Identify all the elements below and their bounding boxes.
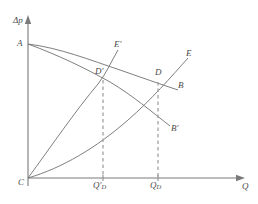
point-label-e: E xyxy=(186,49,192,58)
y-axis-arrowhead xyxy=(25,15,31,24)
point-label-b: B xyxy=(178,81,184,90)
economics-diagram xyxy=(0,0,258,204)
tick-label-q-d-prime-sub: D xyxy=(101,183,106,190)
x-axis-label: Q xyxy=(242,182,249,191)
curve-c-to-e xyxy=(28,58,188,178)
y-axis-label: Δp xyxy=(13,16,23,25)
point-label-d: D xyxy=(155,68,162,77)
tick-label-q-d-prime: Q′D xyxy=(93,181,106,191)
point-label-d-prime: D′ xyxy=(95,67,103,76)
point-label-b-prime: B′ xyxy=(171,124,178,133)
tick-label-q-d-sub: D xyxy=(157,183,162,190)
point-label-e-prime: E′ xyxy=(114,40,121,49)
point-label-a: A xyxy=(17,39,23,48)
tick-label-q-d: QD xyxy=(150,181,161,191)
point-label-c: C xyxy=(18,178,24,187)
curve-a-to-b-prime xyxy=(28,44,170,126)
